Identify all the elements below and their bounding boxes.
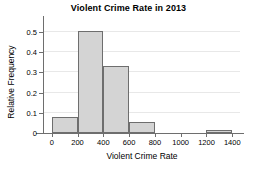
x-tick-mark (78, 133, 79, 137)
x-tick-mark (129, 133, 130, 137)
gridline (44, 51, 240, 52)
gridline (44, 71, 240, 72)
x-tick-label: 1400 (212, 138, 252, 147)
gridline (44, 92, 240, 93)
x-tick-mark (103, 133, 104, 137)
x-tick-mark (181, 133, 182, 137)
y-tick-mark (39, 72, 44, 73)
x-axis-title: Violent Crime Rate (44, 151, 240, 161)
y-tick-mark (39, 113, 44, 114)
y-tick-mark (39, 52, 44, 53)
y-tick-mark (39, 93, 44, 94)
y-axis-line (43, 16, 44, 134)
histogram-bar (103, 66, 129, 133)
gridline (44, 31, 240, 32)
violent-crime-rate-histogram: Violent Crime Rate in 2013 00.10.20.30.4… (0, 0, 257, 169)
x-axis-line (36, 133, 244, 134)
y-tick-mark (39, 32, 44, 33)
histogram-bar (129, 122, 155, 133)
chart-title: Violent Crime Rate in 2013 (0, 3, 257, 13)
x-tick-mark (52, 133, 53, 137)
histogram-bar (52, 117, 78, 133)
x-tick-mark (206, 133, 207, 137)
y-tick-mark (39, 133, 44, 134)
x-tick-mark (232, 133, 233, 137)
gridline (44, 112, 240, 113)
histogram-bar (78, 31, 104, 133)
x-tick-mark (155, 133, 156, 137)
y-axis-title: Relative Frequency (6, 27, 16, 137)
plot-area (44, 22, 240, 133)
